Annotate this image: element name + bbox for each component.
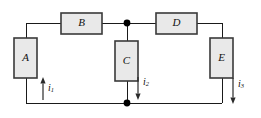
current-i3-subscript: 3 xyxy=(240,83,245,90)
component-d-label: D xyxy=(172,16,181,28)
current-i2-arrow-head xyxy=(135,94,140,101)
circuit-canvas: A B C D E xyxy=(0,0,261,118)
current-i1: i1 xyxy=(40,77,54,100)
component-c-label: C xyxy=(123,54,131,66)
current-i3: i3 xyxy=(230,78,244,104)
current-i2-label: i2 xyxy=(143,76,150,87)
current-group: i1 i2 i3 xyxy=(40,76,244,104)
current-i1-label: i1 xyxy=(48,82,54,93)
current-i2: i2 xyxy=(135,76,149,100)
junction-dot-bottom xyxy=(124,100,131,107)
component-c: C xyxy=(115,41,138,81)
component-e-label: E xyxy=(217,51,225,63)
component-e: E xyxy=(210,38,233,78)
component-a-label: A xyxy=(21,51,29,63)
current-i3-arrow-head xyxy=(230,98,235,105)
current-i2-subscript: 2 xyxy=(146,81,150,88)
current-i1-arrow-head xyxy=(40,77,45,84)
component-a: A xyxy=(14,38,37,78)
current-i1-subscript: 1 xyxy=(51,87,54,94)
circuit-diagram: A B C D E xyxy=(0,0,261,118)
current-i3-label: i3 xyxy=(238,78,245,89)
component-d: D xyxy=(156,13,197,34)
junction-dot-top xyxy=(124,20,131,27)
component-b-label: B xyxy=(78,16,85,28)
component-b: B xyxy=(61,13,102,34)
